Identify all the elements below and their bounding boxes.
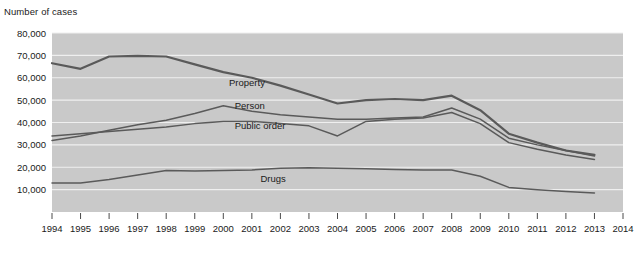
x-axis-tick-label: 2007 [413, 223, 434, 234]
x-axis-tick-label: 1996 [99, 223, 120, 234]
series-label-property: Property [229, 77, 265, 88]
y-axis-tick-label: 60,000 [17, 72, 46, 83]
x-axis-tick-label: 2009 [470, 223, 491, 234]
series-label-person: Person [235, 100, 265, 111]
y-axis-tick-label: 30,000 [17, 139, 46, 150]
x-axis-tick-label: 2008 [441, 223, 462, 234]
y-axis-tick-label: 20,000 [17, 162, 46, 173]
x-axis-tickmarks [52, 213, 623, 219]
x-axis-tick-label: 2012 [555, 223, 576, 234]
y-axis-labels: 10,00020,00030,00040,00050,00060,00070,0… [17, 28, 46, 196]
x-axis-labels: 1994199519961997199819992000200120022003… [41, 223, 633, 234]
x-axis-tick-label: 2013 [584, 223, 605, 234]
x-axis-tick-label: 1995 [70, 223, 91, 234]
x-axis-tick-label: 2000 [213, 223, 234, 234]
x-axis-tick-label: 1994 [41, 223, 62, 234]
x-axis-tick-label: 2004 [327, 223, 348, 234]
plot-canvas: 10,00020,00030,00040,00050,00060,00070,0… [0, 0, 638, 256]
x-axis-tick-label: 2003 [298, 223, 319, 234]
y-axis-tick-label: 70,000 [17, 50, 46, 61]
y-axis-tick-label: 50,000 [17, 95, 46, 106]
line-chart: Number of cases 10,00020,00030,00040,000… [0, 0, 638, 256]
x-axis-tick-label: 1997 [127, 223, 148, 234]
y-axis-tick-label: 10,000 [17, 184, 46, 195]
series-label-public-order: Public order [235, 120, 286, 131]
y-axis-tick-label: 40,000 [17, 117, 46, 128]
x-axis-tick-label: 1999 [184, 223, 205, 234]
x-axis-tick-label: 2014 [612, 223, 633, 234]
x-axis-tick-label: 2006 [384, 223, 405, 234]
x-axis-tick-label: 2010 [498, 223, 519, 234]
x-axis-tick-label: 2002 [270, 223, 291, 234]
y-axis-tick-label: 80,000 [17, 28, 46, 39]
series-label-drugs: Drugs [260, 173, 286, 184]
x-axis-tick-label: 2005 [355, 223, 376, 234]
x-axis-tick-label: 2001 [241, 223, 262, 234]
x-axis-tick-label: 1998 [156, 223, 177, 234]
x-axis-tick-label: 2011 [527, 223, 547, 234]
